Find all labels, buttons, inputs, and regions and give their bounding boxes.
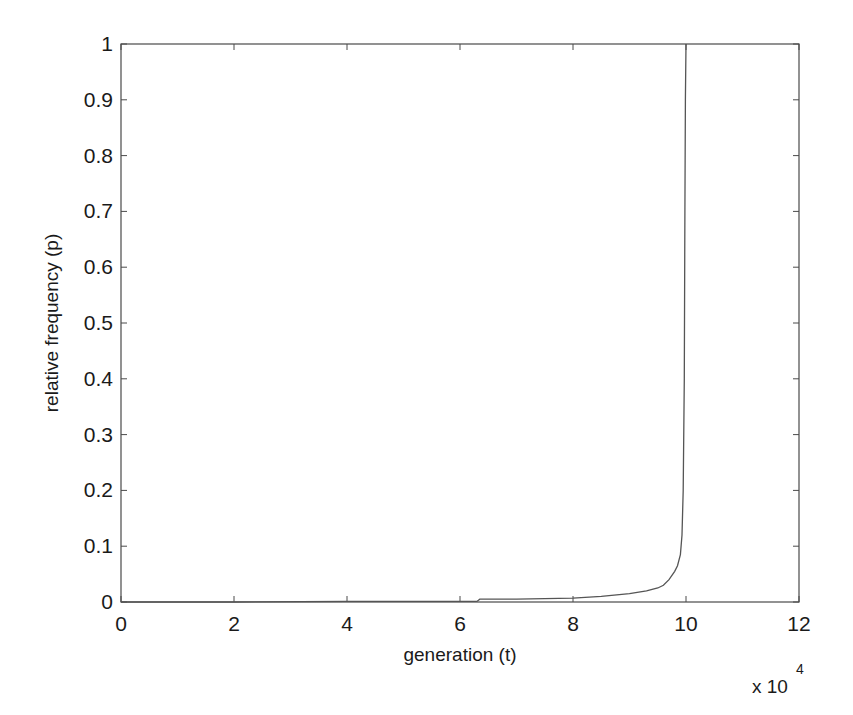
x-tick-label: 2 [228,612,240,635]
y-tick-label: 0 [101,590,113,613]
y-tick-label: 0.7 [84,199,113,222]
y-tick-label: 0.1 [84,534,113,557]
y-tick-label: 1 [101,32,113,55]
chart: 024681012 00.10.20.30.40.50.60.70.80.91 … [0,0,853,715]
x-tick-label: 4 [341,612,353,635]
y-tick-label: 0.9 [84,88,113,111]
plot-area [121,44,799,602]
x-axis-label: generation (t) [403,644,516,665]
y-tick-label: 0.3 [84,423,113,446]
x-tick-label: 10 [674,612,697,635]
y-axis-label: relative frequency (p) [41,234,62,412]
x-multiplier-exponent: 4 [796,661,804,677]
x-tick-label: 12 [787,612,810,635]
x-tick-label: 0 [115,612,127,635]
x-tick-label: 8 [567,612,579,635]
x-multiplier-label: x 10 [752,676,788,697]
y-tick-label: 0.4 [84,367,114,390]
y-tick-label: 0.6 [84,255,113,278]
y-tick-label: 0.8 [84,144,113,167]
y-tick-label: 0.2 [84,478,113,501]
y-tick-label: 0.5 [84,311,113,334]
x-tick-label: 6 [454,612,466,635]
